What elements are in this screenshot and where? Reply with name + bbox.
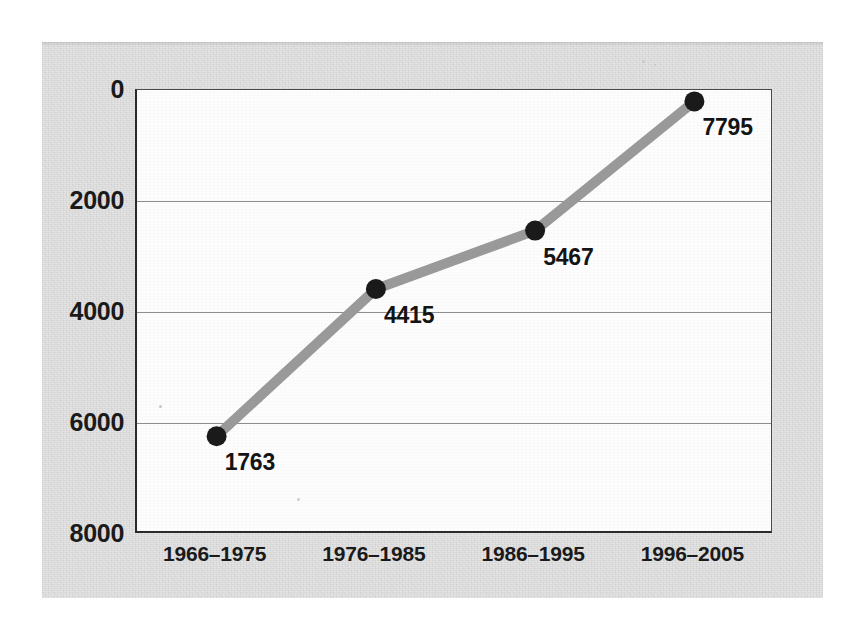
y-axis-tick-0: 0 [14,77,124,102]
y-axis-tick-4000: 4000 [14,299,124,324]
data-label-1: 1763 [225,451,275,474]
y-axis-tick-8000: 8000 [14,521,124,546]
data-label-3: 5467 [543,246,593,269]
y-axis-tick-2000: 2000 [14,188,124,213]
data-point-marker-2 [366,279,386,299]
scan-shadow [42,42,823,46]
scan-speck [642,60,645,63]
data-label-2: 4415 [384,304,434,327]
x-axis-tick-1996-2005: 1996–2005 [592,543,792,564]
series-line [217,101,695,436]
data-point-marker-3 [525,221,545,241]
plot-inner: 1763 4415 5467 7795 [137,90,771,531]
figure-root: 8000 6000 4000 2000 0 1763 4415 5467 [0,0,858,636]
plot-area: 1763 4415 5467 7795 [135,89,772,533]
data-label-4: 7795 [702,116,752,139]
y-axis-tick-6000: 6000 [14,410,124,435]
data-point-marker-1 [207,426,227,446]
data-point-marker-4 [684,91,704,111]
scan-speck [654,64,656,66]
